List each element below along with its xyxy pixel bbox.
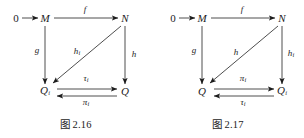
subscript-i: i	[244, 76, 246, 83]
node-m: M	[40, 13, 49, 24]
edge-label-pi-sub-i: πi	[240, 74, 247, 84]
node-zero: 0	[170, 13, 176, 24]
edge-label-h-sub-i: hi	[74, 47, 81, 57]
figure-2-17: 0 M N Q Qi f g hi h πi τi 图2.17	[152, 0, 304, 138]
edge-label-pi-sub-i: πi	[83, 98, 90, 108]
subscript-i: i	[285, 89, 287, 96]
caption-prefix: 图	[212, 118, 222, 130]
node-q: Q	[121, 86, 129, 97]
edge-label-f: f	[84, 5, 87, 14]
edge-label-tau-sub-i: τi	[83, 74, 88, 84]
edge-label-h-sub-i: hi	[288, 49, 295, 59]
subscript-i: i	[48, 89, 50, 96]
subscript-i: i	[78, 49, 80, 56]
edge-label-h: h	[234, 48, 239, 57]
node-q-sub-i: Qi	[40, 85, 50, 97]
subscript-i: i	[87, 76, 89, 83]
edge-label-g: g	[35, 46, 40, 55]
node-q: Q	[198, 86, 206, 97]
node-n: N	[278, 13, 285, 24]
figure-2-17-caption: 图2.17	[152, 116, 304, 131]
edge-label-tau-sub-i: τi	[240, 98, 245, 108]
figure-2-16: 0 M N Qi Q f g h hi τi πi 图2.16	[0, 0, 152, 138]
figure-pair-page: 0 M N Qi Q f g h hi τi πi 图2.16	[0, 0, 304, 138]
edge-label-g: g	[192, 46, 197, 55]
caption-number: 2.16	[73, 119, 92, 130]
node-zero: 0	[13, 13, 19, 24]
node-m: M	[197, 13, 206, 24]
subscript-i: i	[244, 100, 246, 107]
edge-label-f: f	[241, 5, 244, 14]
node-n: N	[121, 13, 128, 24]
edge-label-h: h	[132, 50, 137, 59]
node-q-sub-i: Qi	[277, 85, 287, 97]
caption-prefix: 图	[60, 118, 70, 130]
subscript-i: i	[292, 51, 294, 58]
figure-2-16-caption: 图2.16	[0, 116, 152, 131]
caption-number: 2.17	[225, 119, 244, 130]
subscript-i: i	[87, 100, 89, 107]
